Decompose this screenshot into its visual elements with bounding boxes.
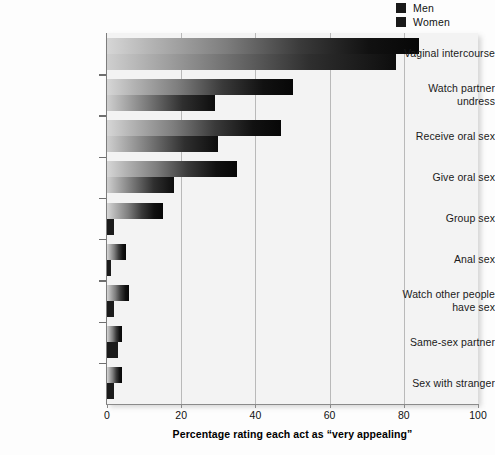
y-category-label-4: Group sex: [391, 212, 495, 225]
y-category-line: Receive oral sex: [391, 130, 495, 143]
bar-women-8: [107, 383, 114, 399]
legend-label-women: Women: [413, 17, 450, 28]
bar-men-2: [107, 120, 281, 136]
bar-women-3: [107, 177, 174, 193]
bar-men-6: [107, 285, 129, 301]
x-axis-line: [106, 404, 478, 405]
bar-men-0: [107, 38, 419, 54]
x-axis-label-100: 100: [464, 409, 492, 421]
bar-men-8: [107, 367, 122, 383]
x-axis-tick-20: [181, 404, 182, 408]
y-category-label-0: Vaginal intercourse: [391, 47, 495, 60]
x-axis-title: Percentage rating each act as “very appe…: [107, 428, 478, 440]
bar-women-5: [107, 260, 111, 276]
chart-legend: Men Women: [396, 2, 491, 30]
x-axis-tick-0: [107, 404, 108, 408]
y-category-line: Vaginal intercourse: [391, 47, 495, 60]
bar-women-7: [107, 342, 118, 358]
x-axis-label-60: 60: [316, 409, 344, 421]
y-axis-tick-6: [99, 322, 106, 323]
y-category-label-3: Give oral sex: [391, 171, 495, 184]
y-axis-tick-2: [99, 157, 106, 158]
y-category-label-2: Receive oral sex: [391, 130, 495, 143]
x-axis-tick-80: [404, 404, 405, 408]
y-axis-tick-4: [99, 239, 106, 240]
y-category-line: Sex with stranger: [391, 377, 495, 390]
bar-women-6: [107, 301, 114, 317]
y-axis-line: [106, 33, 107, 405]
bar-men-4: [107, 203, 163, 219]
y-category-label-7: Same-sex partner: [391, 336, 495, 349]
bar-women-2: [107, 136, 218, 152]
x-axis-label-40: 40: [241, 409, 269, 421]
y-category-label-8: Sex with stranger: [391, 377, 495, 390]
y-axis-tick-0: [99, 74, 106, 75]
y-axis-tick-7: [99, 363, 106, 364]
y-category-line: Group sex: [391, 212, 495, 225]
bar-men-3: [107, 161, 237, 177]
y-category-line: have sex: [391, 301, 495, 314]
bar-women-1: [107, 95, 215, 111]
bar-women-0: [107, 54, 396, 70]
y-category-label-1: Watch partnerundress: [391, 82, 495, 107]
legend-label-men: Men: [413, 3, 434, 14]
y-category-line: undress: [391, 95, 495, 108]
x-axis-tick-40: [255, 404, 256, 408]
x-axis-label-0: 0: [93, 409, 121, 421]
y-axis-tick-3: [99, 198, 106, 199]
x-axis-tick-60: [330, 404, 331, 408]
x-axis-tick-100: [478, 404, 479, 408]
y-category-line: Watch other people: [391, 288, 495, 301]
legend-item-men: Men: [396, 2, 491, 14]
legend-item-women: Women: [396, 16, 491, 28]
y-category-line: Anal sex: [391, 253, 495, 266]
gridline-60: [330, 33, 331, 404]
y-axis-tick-5: [99, 280, 106, 281]
legend-swatch-men: [396, 3, 406, 13]
bar-men-7: [107, 326, 122, 342]
y-category-line: Same-sex partner: [391, 336, 495, 349]
x-axis-label-20: 20: [167, 409, 195, 421]
legend-swatch-women: [396, 17, 406, 27]
y-category-label-5: Anal sex: [391, 253, 495, 266]
x-axis-label-80: 80: [390, 409, 418, 421]
y-category-line: Give oral sex: [391, 171, 495, 184]
y-axis-tick-1: [99, 115, 106, 116]
bar-women-4: [107, 219, 114, 235]
bar-men-1: [107, 79, 293, 95]
y-category-line: Watch partner: [391, 82, 495, 95]
y-category-label-6: Watch other peoplehave sex: [391, 288, 495, 313]
bar-men-5: [107, 244, 126, 260]
chart-figure: Men Women Vaginal intercourseWatch partn…: [0, 0, 495, 455]
